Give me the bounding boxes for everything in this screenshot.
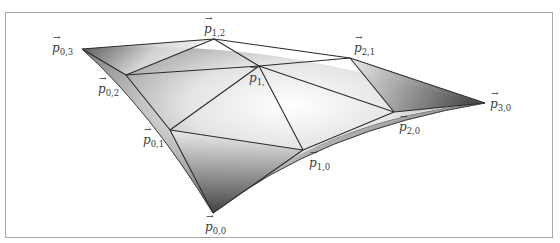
- label-p12: p1,2: [204, 23, 225, 38]
- label-p00: p0,0: [205, 221, 226, 236]
- label-p20: p2,0: [399, 121, 420, 136]
- bezier-triangle-diagram: [0, 0, 560, 243]
- label-p30: p3,0: [490, 98, 511, 113]
- label-p10: p1,0: [309, 157, 330, 172]
- label-p11: p1,: [249, 72, 265, 87]
- label-p03: p0,3: [52, 42, 73, 57]
- label-p21: p2,1: [354, 42, 375, 57]
- label-p02: p0,2: [98, 83, 119, 98]
- label-p01: p0,1: [143, 134, 164, 149]
- bezier-surface: [82, 47, 485, 213]
